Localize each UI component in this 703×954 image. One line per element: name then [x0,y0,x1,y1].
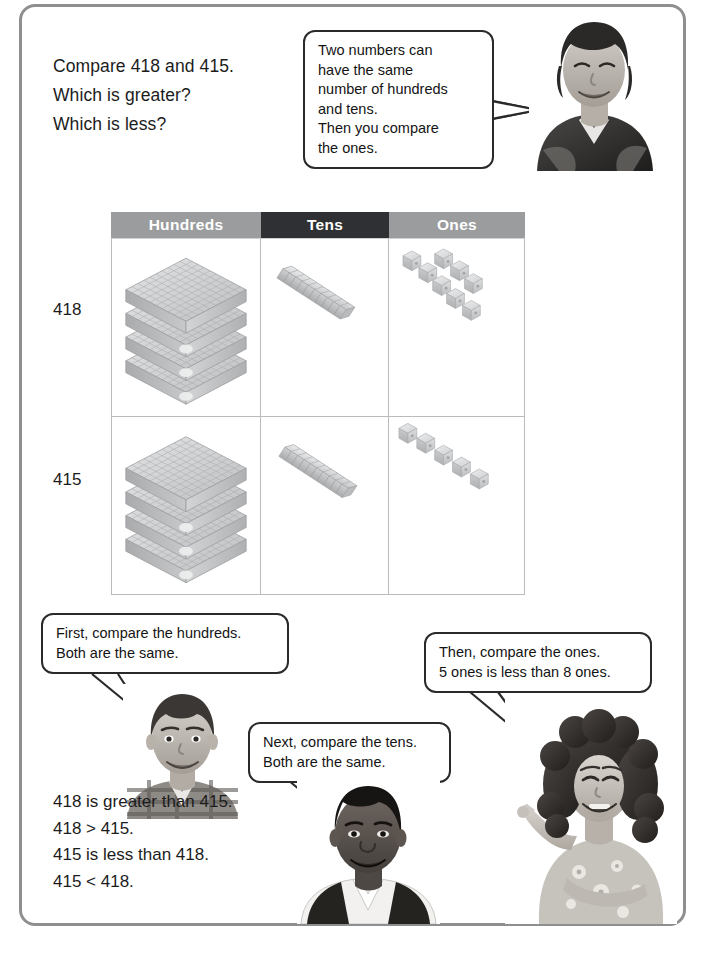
cell-ones-415 [389,417,525,596]
tens-rod-418 [261,239,388,416]
speech-bubble-tens: Next, compare the tens. Both are the sam… [248,722,451,783]
question-line-3: Which is less? [53,110,303,139]
question-line-2: Which is greater? [53,81,303,110]
bubble-ones-line-1: Then, compare the ones. [439,643,638,663]
question-line-1: Compare 418 and 415. [53,52,303,81]
column-header-tens: Tens [261,212,389,238]
speech-bubble-top: Two numbers can have the same number of … [303,30,494,169]
question-block: Compare 418 and 415. Which is greater? W… [53,52,303,139]
cell-tens-415 [261,417,389,596]
row-label-418: 418 [53,300,109,320]
bubble-hundreds-line-1: First, compare the hundreds. [56,624,275,644]
bubble-top-line-4: and tens. [318,100,480,120]
hundreds-flats-415 [112,417,260,595]
photo-boy-tens [297,778,440,924]
bubble-top-line-6: the ones. [318,139,480,159]
row-label-415: 415 [53,470,109,490]
table-row [111,238,525,417]
bubble-ones-line-2: 5 ones is less than 8 ones. [439,663,638,683]
conclusion-line-4: 415 < 418. [53,869,313,896]
conclusion-line-2: 418 > 415. [53,816,313,843]
conclusion-line-1: 418 is greater than 415. [53,789,313,816]
table-body [111,238,525,595]
ones-cubes-415 [389,417,524,595]
photo-girl-ones [505,700,677,924]
bubble-tens-line-2: Both are the same. [263,753,437,773]
conclusion-block: 418 is greater than 415. 418 > 415. 415 … [53,789,313,895]
column-header-ones: Ones [389,212,525,238]
bubble-hundreds-line-2: Both are the same. [56,644,275,664]
tens-rod-415 [261,417,388,595]
cell-hundreds-415 [111,417,261,596]
ones-cubes-418 [389,239,524,416]
cell-hundreds-418 [111,238,261,417]
table-header-row: Hundreds Tens Ones [111,212,525,238]
cell-ones-418 [389,238,525,417]
cell-tens-418 [261,238,389,417]
bubble-top-line-3: number of hundreds [318,80,480,100]
photo-boy-top [529,8,660,171]
table-row [111,417,525,596]
bubble-top-line-2: have the same [318,61,480,81]
speech-bubble-hundreds: First, compare the hundreds. Both are th… [41,613,289,674]
bubble-tens-line-1: Next, compare the tens. [263,733,437,753]
place-value-table: Hundreds Tens Ones [111,212,525,595]
speech-bubble-ones: Then, compare the ones. 5 ones is less t… [424,632,652,693]
hundreds-flats-418 [112,239,260,416]
column-header-hundreds: Hundreds [111,212,261,238]
bubble-top-line-5: Then you compare [318,119,480,139]
bubble-top-line-1: Two numbers can [318,41,480,61]
conclusion-line-3: 415 is less than 418. [53,842,313,869]
